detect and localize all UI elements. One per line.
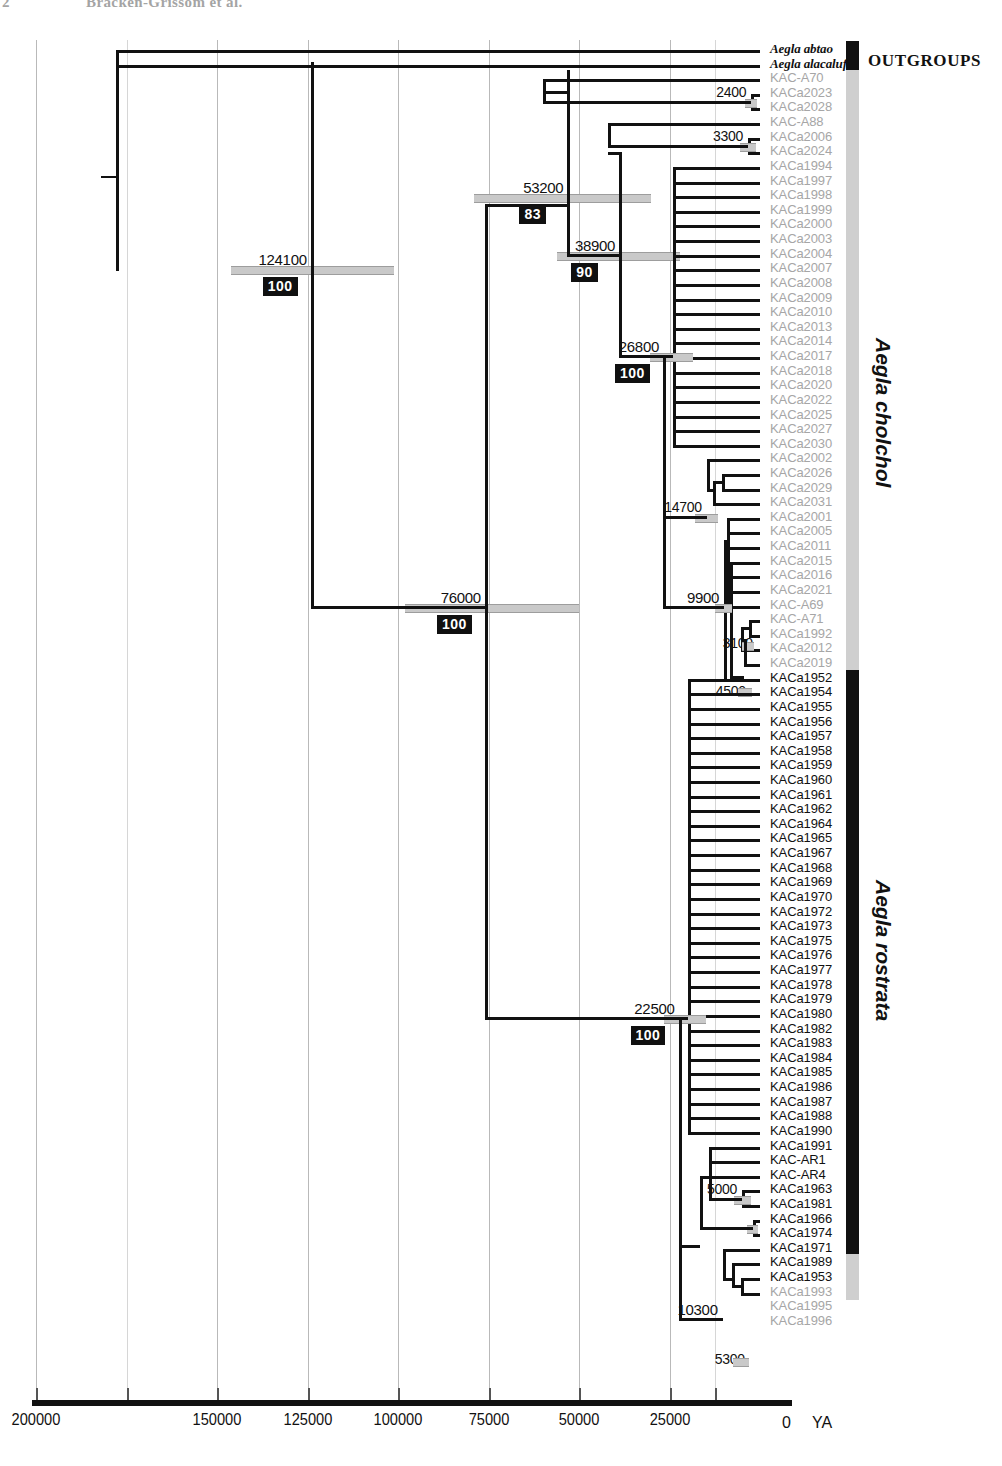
node-support-badge: 100 — [437, 615, 472, 634]
tip-label: KACa1986 — [770, 1080, 832, 1093]
tree-branch-horizontal — [673, 386, 760, 389]
gridline — [36, 40, 37, 1388]
tree-branch-horizontal — [688, 913, 760, 916]
tree-branch-horizontal — [673, 211, 760, 214]
tree-branch-horizontal — [688, 1030, 760, 1033]
tree-branch-vertical — [567, 70, 570, 199]
tree-branch-horizontal — [673, 196, 760, 199]
tree-branch-vertical — [608, 123, 611, 148]
clade-bar-aegla-cholchol-lower — [846, 1254, 859, 1299]
tip-label: KACa1970 — [770, 890, 832, 903]
tip-label: KACa1967 — [770, 846, 832, 859]
tree-branch-horizontal — [688, 942, 760, 945]
tree-branch-horizontal — [688, 1044, 760, 1047]
tree-branch-horizontal — [485, 1017, 679, 1020]
tree-branch-horizontal — [688, 737, 760, 740]
axis-tick-label: 200000 — [0, 1410, 88, 1430]
node-support-badge: 90 — [571, 263, 598, 282]
hpd-bar — [474, 194, 651, 203]
running-head-page-number: 2 — [2, 0, 10, 11]
tip-label: KACa1980 — [770, 1007, 832, 1020]
node-age-label: 22500 — [557, 1000, 675, 1017]
tip-label: KACa1987 — [770, 1095, 832, 1108]
tree-branch-vertical — [688, 679, 691, 1135]
gridline — [217, 40, 218, 1388]
tree-branch-horizontal — [688, 766, 760, 769]
tree-branch-horizontal — [688, 1103, 760, 1106]
tip-label: KACa1965 — [770, 831, 832, 844]
node-age-label: 2400 — [628, 84, 746, 100]
tree-branch-horizontal — [116, 65, 760, 68]
axis-tick-label: 50000 — [527, 1410, 630, 1430]
tree-branch-horizontal — [608, 123, 760, 126]
tree-branch-horizontal — [673, 328, 760, 331]
tree-branch-vertical — [700, 1176, 703, 1230]
tree-branch-horizontal — [709, 1176, 760, 1179]
tip-label: KACa1957 — [770, 729, 832, 742]
tree-branch-vertical — [663, 355, 666, 520]
tree-branch-horizontal — [688, 854, 760, 857]
tree-branch-horizontal — [543, 79, 760, 82]
tree-branch-horizontal — [673, 342, 760, 345]
tip-label: KACa2015 — [770, 554, 832, 567]
axis-tick — [579, 1388, 581, 1400]
tree-branch-vertical — [116, 57, 119, 271]
tree-branch-horizontal — [688, 1059, 760, 1062]
tree-branch-horizontal — [543, 101, 752, 104]
tree-branch-horizontal — [713, 503, 760, 506]
tip-label: KACa2022 — [770, 393, 832, 406]
tree-plot-area: 1241001002400532008333003890090268001001… — [0, 40, 1002, 1390]
node-support-badge: 83 — [519, 205, 546, 224]
tree-branch-horizontal — [673, 255, 760, 258]
tip-label: KACa1978 — [770, 978, 832, 991]
axis-tick — [217, 1388, 219, 1400]
gridline — [127, 40, 128, 1388]
tip-label: KACa2011 — [770, 539, 831, 552]
tree-branch-vertical — [567, 196, 570, 257]
clade-bar-aegla-cholchol — [846, 70, 859, 671]
tree-branch-horizontal — [608, 145, 748, 148]
tree-branch-vertical — [722, 474, 725, 492]
tip-label: Aegla abtao — [770, 42, 833, 55]
tip-label: KACa2004 — [770, 247, 832, 260]
tip-label: KACa2014 — [770, 334, 832, 347]
tip-label: Aegla alacalufi — [770, 57, 850, 70]
tree-branch-horizontal — [709, 1147, 760, 1150]
hpd-bar — [733, 1358, 749, 1367]
tip-label: KACa2005 — [770, 524, 832, 537]
tip-label: KACa1973 — [770, 919, 832, 932]
tip-label: KACa1960 — [770, 773, 832, 786]
tree-branch-horizontal — [311, 606, 485, 609]
tip-label: KACa2012 — [770, 641, 832, 654]
tip-label: KACa2003 — [770, 232, 832, 245]
node-support-badge: 100 — [615, 364, 650, 383]
tree-branch-vertical — [732, 1263, 735, 1288]
clade-label-aegla-cholchol: Aegla cholchol — [871, 338, 895, 487]
tip-label: KACa1983 — [770, 1036, 832, 1049]
tip-label: KACa1995 — [770, 1299, 832, 1312]
tree-branch-horizontal — [688, 883, 760, 886]
axis-tick-label: 150000 — [165, 1410, 268, 1430]
tip-label: KACa1994 — [770, 159, 832, 172]
tree-branch-horizontal — [688, 1073, 760, 1076]
tip-label: KACa1975 — [770, 934, 832, 947]
tip-label: KACa1979 — [770, 992, 832, 1005]
tree-branch-horizontal — [679, 1245, 701, 1248]
node-age-label: 5300 — [627, 1351, 745, 1367]
tree-branch-horizontal — [688, 752, 760, 755]
tip-label: KACa2018 — [770, 364, 832, 377]
axis-tick — [489, 1388, 491, 1400]
tip-label: KACa2010 — [770, 305, 832, 318]
tree-branch-horizontal — [101, 176, 115, 178]
tip-label: KACa1974 — [770, 1226, 832, 1239]
tree-branch-horizontal — [688, 1000, 760, 1003]
tip-label: KACa1988 — [770, 1109, 832, 1122]
axis-tick — [670, 1388, 672, 1400]
node-age-label: 26800 — [541, 338, 659, 355]
tree-branch-vertical — [311, 268, 314, 609]
tip-label: KACa1969 — [770, 875, 832, 888]
tree-branch-horizontal — [673, 240, 760, 243]
tree-branch-horizontal — [673, 430, 760, 433]
tree-branch-horizontal — [732, 1263, 760, 1266]
tip-label: KAC-AR1 — [770, 1153, 826, 1166]
